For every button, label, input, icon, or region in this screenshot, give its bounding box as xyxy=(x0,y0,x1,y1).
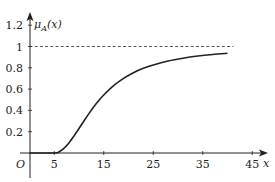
y-tick-label: 0.6 xyxy=(6,83,24,96)
y-tick-label: 0.8 xyxy=(6,62,24,75)
y-tick-label: 1.2 xyxy=(6,19,24,32)
x-tick-label: 25 xyxy=(146,158,160,171)
membership-function-chart: 515253545 0.20.40.60.811.2 O x μA(x) xyxy=(0,0,275,182)
origin-label: O xyxy=(16,158,25,171)
x-ticks: 515253545 xyxy=(51,151,260,171)
membership-curve xyxy=(30,53,228,153)
y-tick-label: 1 xyxy=(16,41,23,54)
x-axis-label: x xyxy=(263,157,270,170)
y-tick-label: 0.2 xyxy=(6,126,24,139)
y-axis-label: μA(x) xyxy=(34,18,62,33)
y-ticks: 0.20.40.60.811.2 xyxy=(6,19,33,139)
x-tick-label: 35 xyxy=(196,158,210,171)
x-tick-label: 15 xyxy=(97,158,111,171)
y-tick-label: 0.4 xyxy=(6,104,24,117)
x-tick-label: 45 xyxy=(245,158,259,171)
x-tick-label: 5 xyxy=(51,158,58,171)
